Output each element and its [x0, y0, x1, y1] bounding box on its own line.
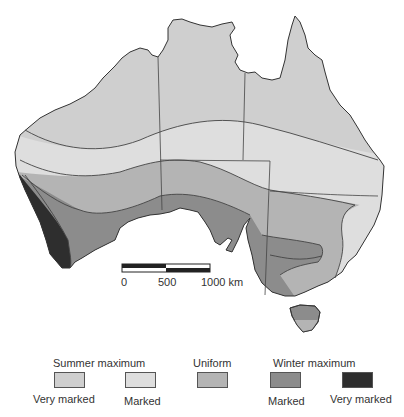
swatch-winter-marked	[270, 372, 301, 388]
scale-bar	[122, 264, 210, 272]
scale-label-500: 500	[158, 276, 176, 288]
legend-label-summer-very-marked: Very marked	[33, 393, 95, 405]
swatch-summer-marked	[125, 372, 156, 388]
swatch-summer-very-marked	[54, 372, 85, 388]
legend-group-summer: Summer maximum	[53, 357, 145, 369]
legend-label-winter-very-marked: Very marked	[330, 393, 392, 405]
australia-map	[0, 0, 404, 340]
legend-group-winter: Winter maximum	[273, 357, 356, 369]
swatch-uniform	[197, 372, 228, 388]
scale-label-0: 0	[121, 276, 127, 288]
legend-label-winter-marked: Marked	[268, 395, 305, 407]
legend-label-summer-marked: Marked	[124, 395, 161, 407]
legend-group-uniform: Uniform	[193, 357, 232, 369]
swatch-winter-very-marked	[342, 372, 373, 388]
scale-label-1000: 1000 km	[201, 276, 243, 288]
